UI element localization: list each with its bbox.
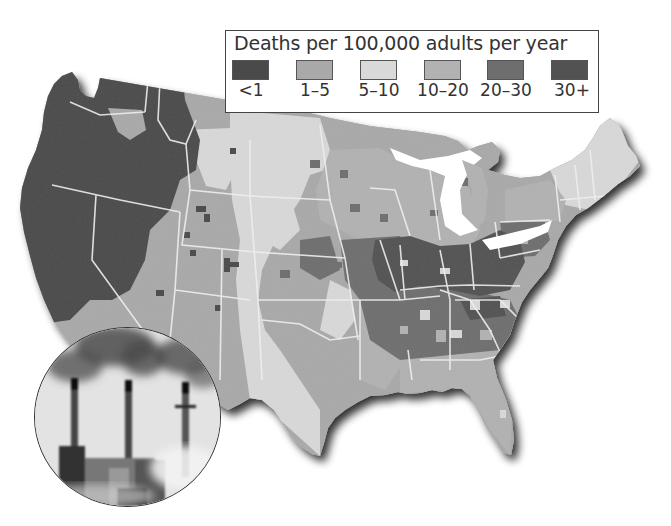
- legend-label-30-plus: 30+: [554, 80, 590, 100]
- legend-swatch-lt1: [232, 60, 269, 80]
- legend-label-10-20: 10–20: [417, 80, 469, 100]
- legend-label-5-10: 5–10: [359, 80, 400, 100]
- legend-swatch-5-10: [360, 60, 397, 80]
- smokestack-photo-inset: [34, 327, 221, 507]
- legend-swatch-30-plus: [551, 60, 588, 80]
- smokestacks-icon: [35, 328, 220, 506]
- legend-swatch-1-5: [296, 60, 333, 80]
- legend-swatch-20-30: [487, 60, 524, 80]
- legend-label-1-5: 1–5: [300, 80, 330, 100]
- legend-label-lt1: <1: [238, 80, 263, 100]
- legend-label-20-30: 20–30: [480, 80, 532, 100]
- legend-title: Deaths per 100,000 adults per year: [234, 32, 567, 54]
- legend: Deaths per 100,000 adults per year <1 1–…: [225, 30, 599, 113]
- legend-swatch-10-20: [424, 60, 461, 80]
